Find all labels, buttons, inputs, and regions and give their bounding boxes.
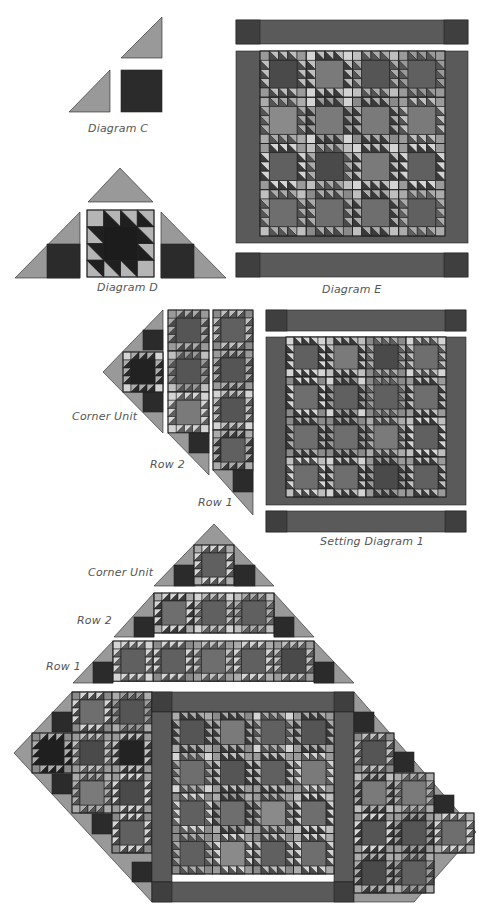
corner-square (318, 489, 326, 497)
corner-square (358, 369, 366, 377)
block-center (269, 60, 297, 88)
corner-square (213, 753, 221, 761)
corner-square (253, 793, 261, 801)
corner-square (398, 457, 406, 465)
corner-square (234, 641, 242, 649)
corner-square (194, 577, 202, 585)
diagram-e (236, 20, 468, 277)
block-center (414, 385, 438, 409)
corner-square (390, 88, 399, 97)
border-corner (236, 20, 260, 44)
block-center (80, 741, 104, 765)
corner-square (204, 834, 212, 842)
block-center (261, 720, 285, 744)
diagram-c (69, 17, 162, 112)
corner-square (306, 641, 314, 649)
corner-square (245, 785, 253, 793)
corner-square (285, 793, 293, 801)
block-center (374, 465, 398, 489)
corner-square (72, 733, 80, 741)
block-center (362, 107, 390, 135)
corner-unit-label-2: Corner Unit (88, 566, 153, 579)
corner-square (213, 310, 221, 318)
setting-triangle-top (88, 168, 153, 202)
corner-square (285, 834, 293, 842)
corner-square (294, 785, 302, 793)
row-1-label-2: Row 1 (46, 660, 81, 673)
corner-square (155, 352, 163, 360)
corner-square (285, 866, 293, 874)
corner-square (226, 673, 234, 681)
corner-square (438, 369, 446, 377)
corner-square (297, 227, 306, 236)
block-center (180, 842, 204, 866)
side-border (152, 712, 172, 882)
corner-square (406, 457, 414, 465)
block-center (201, 649, 225, 673)
block-center (242, 601, 266, 625)
corner-square (285, 744, 293, 752)
corner-square (398, 369, 406, 377)
corner-square (286, 489, 294, 497)
corner-square (204, 825, 212, 833)
corner-square (213, 422, 221, 430)
corner-square (466, 845, 474, 853)
corner-square (343, 88, 352, 97)
corner-square (168, 310, 176, 318)
corner-square (201, 343, 209, 351)
corner-square (399, 88, 408, 97)
corner-square (436, 97, 445, 106)
corner-square (168, 343, 176, 351)
corner-square (318, 377, 326, 385)
corner-square (398, 449, 406, 457)
corner-square (438, 337, 446, 345)
dark-square (189, 433, 209, 453)
corner-square (185, 673, 193, 681)
block-center (302, 761, 326, 785)
corner-square (343, 51, 352, 60)
border-strip (236, 253, 468, 277)
block-center (221, 801, 245, 825)
corner-square (358, 489, 366, 497)
corner-square (326, 457, 334, 465)
corner-square (326, 337, 334, 345)
side-border (334, 712, 354, 882)
corner-square (358, 457, 366, 465)
corner-square (353, 181, 362, 190)
dark-square (52, 712, 72, 732)
diagram-e-label: Diagram E (322, 283, 381, 296)
diagram-c-label: Diagram C (88, 122, 148, 135)
corner-square (354, 853, 362, 861)
corner-square (326, 744, 334, 752)
corner-square (426, 813, 434, 821)
patch (87, 210, 104, 227)
corner-square (326, 449, 334, 457)
corner-square (213, 430, 221, 438)
corner-square (353, 134, 362, 143)
corner-square (204, 712, 212, 720)
corner-square (253, 866, 261, 874)
corner-square (358, 409, 366, 417)
block-center (221, 761, 245, 785)
border-corner (334, 692, 354, 712)
row-1-vertical (213, 310, 253, 515)
corner-square (204, 785, 212, 793)
corner-square (326, 369, 334, 377)
corner-square (260, 227, 269, 236)
dark-square (92, 814, 112, 834)
corner-square (213, 825, 221, 833)
corner-square (253, 785, 261, 793)
block-center (402, 861, 426, 885)
corner-square (104, 724, 112, 732)
corner-square (366, 449, 374, 457)
dark-square (354, 712, 374, 732)
corner-square (204, 753, 212, 761)
block-center (161, 649, 185, 673)
corner-square (343, 134, 352, 143)
corner-square (306, 144, 315, 153)
setting-triangle (121, 17, 162, 58)
corner-square (72, 773, 80, 781)
corner-square (343, 144, 352, 153)
corner-square (326, 834, 334, 842)
corner-square (386, 813, 394, 821)
